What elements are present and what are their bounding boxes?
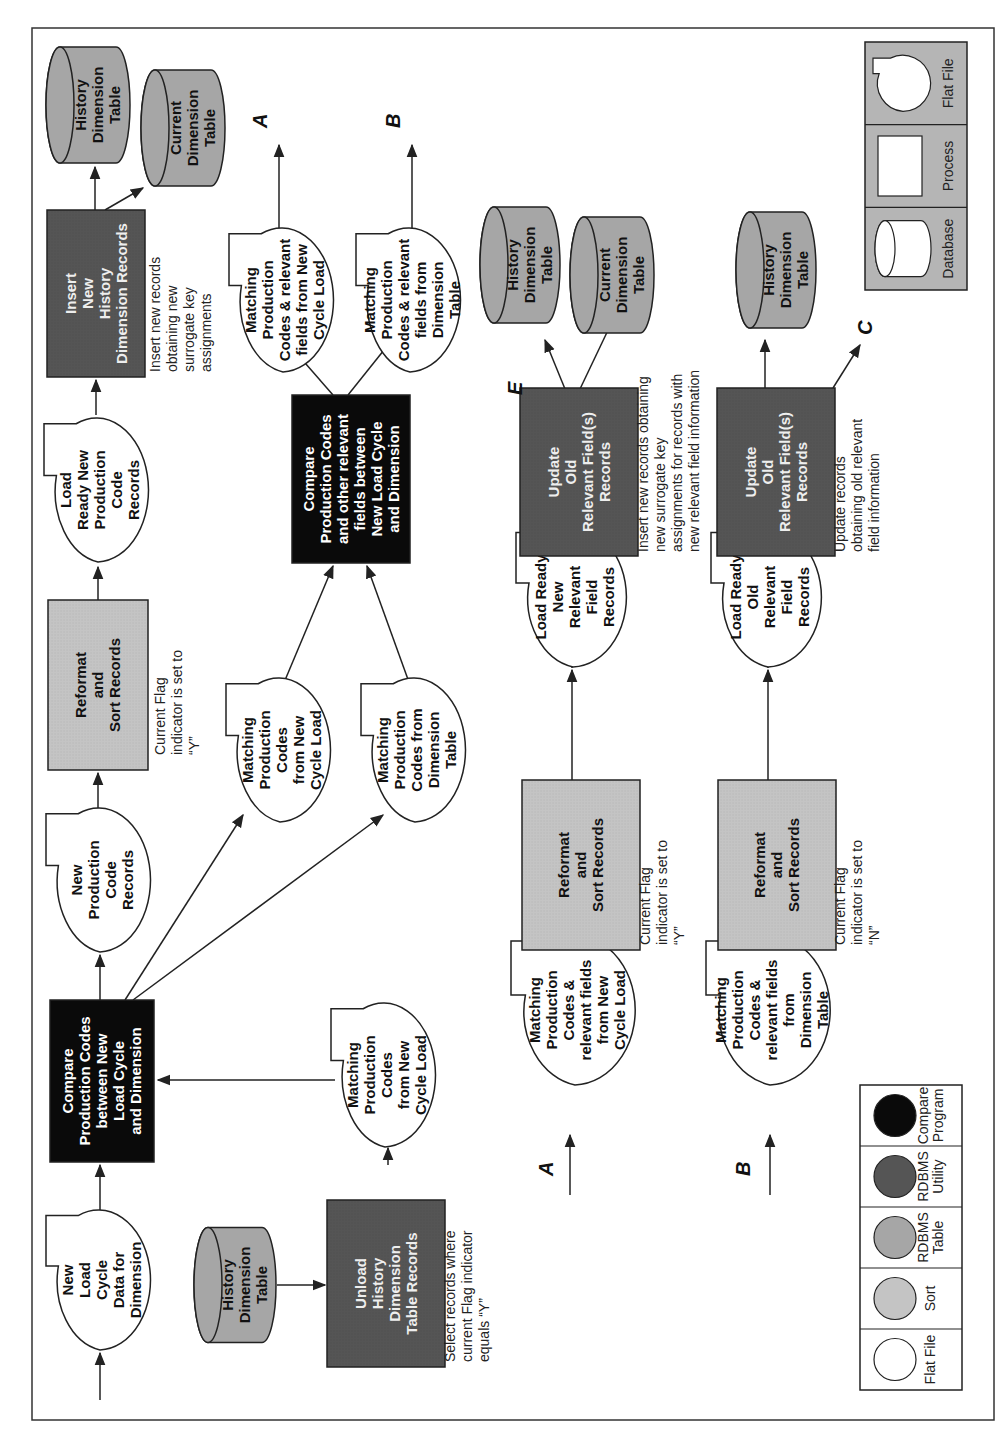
database-current-dimension-table-top[interactable]: CurrentDimensionTable	[141, 70, 225, 186]
flat-file-matching-production-codes-from-new-cycle-load-1[interactable]: MatchingProductionCodesfrom NewCycle Loa…	[331, 1003, 435, 1147]
cylinder-cap	[570, 217, 598, 333]
legend-swatch-icon	[874, 1156, 916, 1198]
legend-item-process: Process	[878, 136, 956, 196]
note-select-records-current-flag-y: Select records wherecurrent Flag indicat…	[442, 1230, 492, 1362]
connector-c: C	[854, 320, 876, 335]
process-insert-new-history-dimension-records[interactable]: InsertNewHistoryDimension Records	[47, 210, 145, 377]
flat-file-matching-codes-relevant-fields-from-new-cycle-load[interactable]: MatchingProductionCodes &relevant fields…	[511, 935, 635, 1085]
flow-arrow	[545, 340, 565, 389]
flat-file-new-production-code-records[interactable]: NewProductionCodeRecords	[46, 808, 150, 952]
database-current-dimension-table-e[interactable]: CurrentDimensionTable	[570, 217, 654, 333]
legend-swatch-icon	[874, 1339, 916, 1381]
legend-label: Sort	[922, 1286, 938, 1312]
flow-arrow	[833, 345, 860, 388]
legend-item-flat-file: Flat File	[874, 1334, 938, 1384]
load-ready-new-rel-label: Load ReadyNewRelevantFieldRecords	[532, 554, 617, 640]
legend-label: CompareProgram	[915, 1087, 946, 1145]
process-reformat-and-sort-1[interactable]: ReformatandSort Records	[48, 600, 148, 770]
process-compare-production-codes-and-other-relevant-fields[interactable]: CompareProduction Codesand other relevan…	[292, 395, 410, 563]
note-current-flag-y-a: Current Flagindicator is set to“Y”	[637, 840, 687, 945]
flat-file-matching-codes-relevant-fields-from-dimension-table[interactable]: MatchingProductionCodes &relevant fields…	[706, 935, 831, 1085]
in-b-label: MatchingProductionCodes &relevant fields…	[712, 960, 831, 1061]
note-insert-new-records: Insert new recordsobtaining newsurrogate…	[147, 257, 214, 372]
flow-arrow	[133, 815, 383, 1000]
flat-file-matching-codes-relevant-fields-dimension-table-out[interactable]: MatchingProductionCodes & relevantfields…	[356, 228, 463, 372]
cylinder-cap	[46, 47, 74, 163]
note-update-records-old-relevant: Update recordsobtaining old relevantfiel…	[832, 419, 882, 552]
process-reformat-and-sort-a[interactable]: ReformatandSort Records	[522, 780, 640, 950]
cylinder-cap	[194, 1228, 222, 1343]
legend: Flat FileSortRDBMSTableRDBMSUtilityCompa…	[860, 42, 967, 1390]
connector-b-in: B	[732, 1162, 754, 1176]
database-history-dimension-table-top[interactable]: HistoryDimensionTable	[46, 47, 130, 163]
flow-arrow	[367, 566, 410, 685]
legend-label: Flat File	[940, 58, 956, 108]
process-update-old-relevant-fields-records-old[interactable]: UpdateOldRelevant Field(s)Records	[717, 388, 835, 556]
connector-b-out: B	[382, 114, 404, 128]
legend-item-database: Database	[875, 218, 956, 278]
load-ready-old-rel-label: Load ReadyOldRelevantFieldRecords	[727, 554, 812, 640]
note-current-flag-y-1: Current Flagindicator is set to“Y”	[152, 650, 202, 755]
connector-a-out: A	[249, 114, 271, 129]
database-history-dimension-table-c[interactable]: HistoryDimensionTable	[736, 212, 816, 328]
database-history-dimension-table-source[interactable]: HistoryDimensionTable	[194, 1228, 276, 1343]
note-current-flag-n: Current Flagindicator is set to“N”	[832, 840, 882, 945]
connector-a-in: A	[535, 1162, 557, 1177]
legend-label: Process	[940, 141, 956, 192]
diagram-canvas: NewLoadCycleData forDimensionCompareProd…	[0, 0, 996, 1449]
etl-flow-diagram: NewLoadCycleData forDimensionCompareProd…	[0, 0, 996, 1449]
legend-label: Flat File	[922, 1334, 938, 1384]
process-unload-history-dimension-table-records[interactable]: UnloadHistoryDimensionTable Records	[327, 1200, 445, 1367]
database-history-dimension-table-e[interactable]: HistoryDimensionTable	[480, 207, 560, 323]
legend-swatch-icon	[874, 1217, 916, 1259]
flat-file-matching-production-codes-from-dimension-table[interactable]: MatchingProductionCodes fromDimensionTab…	[361, 678, 465, 822]
flat-file-new-load-cycle[interactable]: NewLoadCycleData forDimension	[46, 1210, 150, 1350]
process-compare-production-codes[interactable]: CompareProduction Codesbetween NewLoad C…	[50, 1000, 154, 1162]
flat-file-load-ready-new-production-code-records[interactable]: LoadReady NewProductionCodeRecords	[44, 418, 148, 562]
legend-swatch-icon	[874, 1278, 916, 1320]
process-icon	[878, 136, 922, 196]
legend-swatch-icon	[874, 1095, 916, 1137]
database-icon-cap	[875, 221, 895, 277]
flow-arrow	[105, 188, 143, 210]
connector-e: E	[504, 381, 526, 395]
nodes: NewLoadCycleData forDimensionCompareProd…	[44, 47, 882, 1367]
process-reformat-and-sort-b[interactable]: ReformatandSort Records	[718, 780, 836, 950]
flat-file-matching-production-codes-from-new-cycle-load-2[interactable]: MatchingProductionCodesfrom NewCycle Loa…	[226, 678, 330, 822]
legend-label: Database	[940, 218, 956, 278]
legend-item-flat-file: Flat File	[873, 55, 956, 111]
flat-file-matching-codes-relevant-fields-new-cycle-load-out[interactable]: MatchingProductionCodes & relevantfields…	[229, 228, 333, 372]
cylinder-cap	[141, 70, 169, 186]
flow-arrow	[283, 566, 333, 685]
note-insert-new-records-surrogate-key: Insert new records obtainingnew surrogat…	[635, 370, 702, 552]
process-update-old-relevant-fields-records-new[interactable]: UpdateOldRelevant Field(s)Records	[520, 388, 638, 556]
